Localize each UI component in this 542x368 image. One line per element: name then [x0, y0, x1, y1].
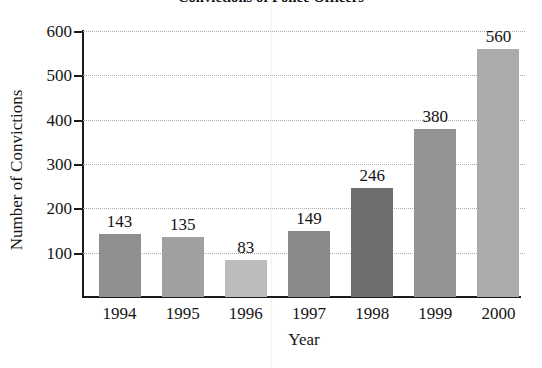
x-tick-label-1996: 1996: [211, 305, 281, 322]
y-tick-label-100: 100: [12, 245, 72, 262]
bar-1998: [351, 188, 393, 297]
y-tick-mark-400: [74, 120, 83, 122]
bar-value-label-1994: 143: [85, 213, 155, 230]
bar-value-label-1997: 149: [274, 210, 344, 227]
bar-1996: [225, 260, 267, 297]
x-tick-label-2000: 2000: [463, 305, 533, 322]
y-tick-label-400: 400: [12, 112, 72, 129]
gridline-500: [83, 75, 525, 76]
x-tick-label-1995: 1995: [148, 305, 218, 322]
y-tick-mark-300: [74, 164, 83, 166]
y-tick-mark-100: [74, 253, 83, 255]
y-tick-label-500: 500: [12, 67, 72, 84]
bar-1997: [288, 231, 330, 297]
chart-title: Convictions of Police Officers: [0, 0, 542, 6]
bar-value-label-1995: 135: [148, 216, 218, 233]
gridline-300: [83, 164, 525, 165]
y-tick-mark-500: [74, 75, 83, 77]
x-tick-label-1997: 1997: [274, 305, 344, 322]
y-tick-mark-200: [74, 208, 83, 210]
y-tick-mark-600: [74, 31, 83, 33]
gridline-600: [83, 31, 525, 32]
x-tick-label-1998: 1998: [337, 305, 407, 322]
bar-value-label-1996: 83: [211, 239, 281, 256]
bar-1994: [99, 234, 141, 297]
y-tick-label-300: 300: [12, 156, 72, 173]
bar-1995: [162, 237, 204, 297]
bar-1999: [414, 129, 456, 297]
bar-value-label-1999: 380: [400, 108, 470, 125]
bar-chart-figure: Convictions of Police Officers Number of…: [0, 0, 542, 368]
bar-value-label-2000: 560: [463, 28, 533, 45]
x-axis-title: Year: [83, 330, 525, 350]
plot-area: [83, 31, 525, 297]
y-tick-label-600: 600: [12, 23, 72, 40]
bar-value-label-1998: 246: [337, 167, 407, 184]
y-tick-label-200: 200: [12, 200, 72, 217]
x-tick-label-1994: 1994: [85, 305, 155, 322]
bar-2000: [477, 49, 519, 297]
x-tick-label-1999: 1999: [400, 305, 470, 322]
